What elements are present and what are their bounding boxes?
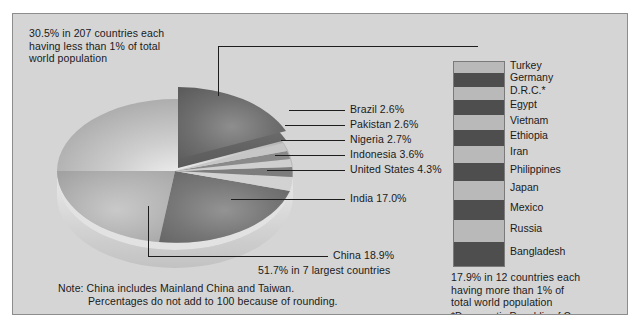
bar-band-label: Turkey	[510, 59, 542, 71]
label-pakistan: Pakistan 2.6%	[350, 118, 418, 131]
bar-band-label: Japan	[510, 181, 539, 193]
bar-band	[454, 200, 504, 220]
leader-line-nigeria	[281, 140, 345, 141]
bar-band-label: Bangladesh	[510, 245, 565, 257]
bar-band-label: Vietnam	[510, 114, 548, 126]
leader-line-pakistan	[285, 125, 345, 126]
bar-band-label: Russia	[510, 222, 542, 234]
bar-band-label: Germany	[510, 71, 553, 83]
leader-line-exploded-vertical	[218, 46, 219, 96]
bar-band	[454, 181, 504, 200]
annotation-seven-largest: 51.7% in 7 largest countries	[258, 264, 390, 277]
bar-band	[454, 73, 504, 86]
bar-band	[454, 87, 504, 100]
label-indonesia: Indonesia 3.6%	[350, 148, 424, 161]
leader-line-united-states	[267, 170, 345, 171]
label-nigeria: Nigeria 2.7%	[350, 133, 411, 146]
note-line-2: Percentages do not add to 100 because of…	[88, 295, 338, 308]
label-brazil: Brazil 2.6%	[350, 103, 404, 116]
bar-band	[454, 100, 504, 115]
bar-band-label: Ethiopia	[510, 129, 548, 141]
bar-band	[454, 62, 504, 73]
bar-band	[454, 146, 504, 163]
leader-line-china-vertical	[148, 206, 149, 256]
leader-line-brazil	[289, 110, 345, 111]
leader-line-india	[231, 199, 345, 200]
annotation-twelve-countries: 17.9% in 12 countries each having more t…	[451, 271, 580, 309]
bar-band-label: D.R.C.*	[510, 84, 546, 96]
leader-line-china-horizontal	[148, 256, 328, 257]
bar-band	[454, 130, 504, 146]
label-united-states: United States 4.3%	[350, 163, 442, 176]
annotation-other-countries: 30.5% in 207 countries each having less …	[29, 27, 164, 65]
bar-band-label: Egypt	[510, 98, 537, 110]
pie-chart-svg	[35, 36, 355, 286]
footnote-drc: *Democratic Republic of Congo	[451, 311, 593, 315]
stacked-bar-chart	[453, 61, 505, 267]
bar-band-label: Philippines	[510, 163, 561, 175]
leader-line-exploded-horizontal	[218, 46, 478, 47]
leader-line-indonesia	[275, 155, 345, 156]
label-china: China 18.9%	[333, 249, 394, 262]
bar-band	[454, 220, 504, 242]
bar-band	[454, 242, 504, 266]
note-line-1: Note: China includes Mainland China and …	[58, 282, 294, 295]
bar-band	[454, 115, 504, 131]
figure-panel: 30.5% in 207 countries each having less …	[12, 13, 628, 315]
bar-band	[454, 163, 504, 181]
bar-band-label: Mexico	[510, 201, 543, 213]
bar-band-label: Iran	[510, 145, 528, 157]
label-india: India 17.0%	[350, 192, 407, 205]
pie-chart	[35, 36, 355, 286]
